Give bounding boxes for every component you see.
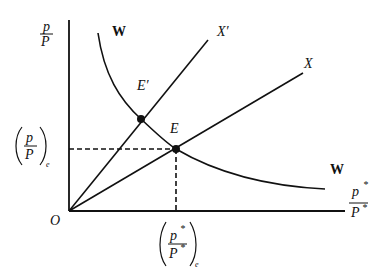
label-w-bottom: W <box>330 162 344 177</box>
svg-text:e: e <box>46 160 50 169</box>
label-e: E <box>169 121 179 136</box>
w-curve <box>98 33 325 189</box>
svg-text:P: P <box>350 205 360 220</box>
y-equilibrium-label: p P e <box>16 127 50 169</box>
svg-text:e: e <box>195 260 199 269</box>
point-e-prime <box>137 115 145 123</box>
svg-text:p: p <box>351 184 359 199</box>
x-equilibrium-label: p * P * e <box>160 222 199 269</box>
diagram-canvas: E′ E W W X′ X O p P p * P * p P e p * P … <box>0 0 385 277</box>
svg-text:*: * <box>180 242 185 253</box>
svg-text:p: p <box>169 228 177 243</box>
svg-text:*: * <box>363 179 368 190</box>
y-axis-label: p P <box>40 19 53 49</box>
ray-x <box>69 73 303 211</box>
label-x-prime: X′ <box>216 24 230 39</box>
svg-text:*: * <box>362 202 367 213</box>
label-w-top: W <box>112 24 126 39</box>
label-x: X <box>303 56 313 71</box>
svg-text:p: p <box>25 130 33 145</box>
svg-text:p: p <box>42 19 50 34</box>
x-axis-label: p * P * <box>349 179 368 220</box>
ray-x-prime <box>69 40 208 211</box>
point-e <box>172 145 180 153</box>
svg-text:*: * <box>180 223 185 234</box>
svg-text:P: P <box>24 147 34 162</box>
label-e-prime: E′ <box>136 78 150 93</box>
svg-text:P: P <box>168 246 178 261</box>
svg-text:P: P <box>40 34 50 49</box>
label-origin: O <box>50 213 60 228</box>
